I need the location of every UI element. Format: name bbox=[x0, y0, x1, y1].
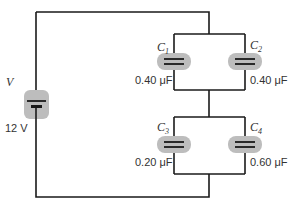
battery-value-label: 12 V bbox=[5, 122, 28, 134]
c1-symbol-label: C1 bbox=[157, 40, 169, 56]
circuit-diagram: V 12 V C1 0.40 μF C2 0.40 μF C3 0.20 μF … bbox=[0, 0, 296, 207]
c3-symbol-label: C3 bbox=[157, 120, 169, 136]
c3-highlight bbox=[157, 136, 191, 153]
c2-value-label: 0.40 μF bbox=[250, 74, 288, 86]
c1-highlight bbox=[157, 53, 191, 70]
battery-symbol-label: V bbox=[6, 75, 15, 89]
capacitor-c3: C3 0.20 μF bbox=[135, 120, 191, 168]
c4-highlight bbox=[228, 136, 262, 153]
c2-symbol-label: C2 bbox=[250, 38, 262, 54]
capacitor-c4: C4 0.60 μF bbox=[228, 120, 288, 168]
capacitor-c1: C1 0.40 μF bbox=[135, 40, 191, 86]
c4-value-label: 0.60 μF bbox=[250, 156, 288, 168]
c1-value-label: 0.40 μF bbox=[135, 74, 173, 86]
c3-value-label: 0.20 μF bbox=[135, 156, 173, 168]
wire-top bbox=[36, 12, 209, 34]
capacitor-c2: C2 0.40 μF bbox=[228, 38, 288, 86]
c2-highlight bbox=[228, 53, 262, 70]
c4-symbol-label: C4 bbox=[250, 120, 262, 136]
wires bbox=[36, 12, 245, 197]
battery: V 12 V bbox=[5, 75, 49, 134]
